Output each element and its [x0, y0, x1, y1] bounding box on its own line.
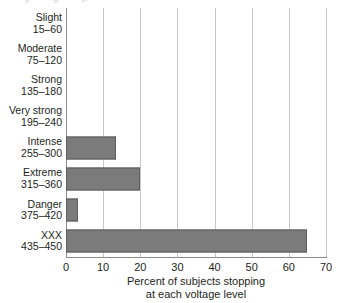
category-label-very-strong: Very strong 195–240: [0, 101, 62, 132]
bar-rows: [66, 8, 326, 257]
xtick-30: 30: [171, 259, 183, 275]
clipped-text-remnant: g g p: [24, 0, 97, 3]
xtick-60: 60: [283, 259, 295, 275]
category-range: 315–360: [21, 179, 62, 191]
category-range: 375–420: [21, 210, 62, 222]
x-axis-label-line2: at each voltage level: [66, 288, 326, 301]
bar-chart: g g p Slight 15–60 Moderate 75–120 Stron…: [0, 0, 338, 303]
category-name: Moderate: [18, 43, 62, 55]
x-axis-line: [66, 257, 327, 258]
bar-row-xxx: [66, 226, 326, 257]
clipped-top-text: g g p: [0, 0, 338, 4]
category-range: 435–450: [21, 241, 62, 253]
xtick-40: 40: [208, 259, 220, 275]
gridline-70: [326, 8, 327, 257]
xtick-70: 70: [320, 259, 332, 275]
category-range: 195–240: [21, 117, 62, 129]
category-range: 135–180: [21, 86, 62, 98]
xtick-10: 10: [97, 259, 109, 275]
category-label-extreme: Extreme 315–360: [0, 164, 62, 195]
bar-intense: [66, 137, 116, 160]
x-axis-label-line1: Percent of subjects stopping: [66, 275, 326, 288]
y-axis-category-labels: Slight 15–60 Moderate 75–120 Strong 135–…: [0, 8, 62, 257]
bar-row-intense: [66, 133, 326, 164]
bar-row-extreme: [66, 164, 326, 195]
category-label-strong: Strong 135–180: [0, 70, 62, 101]
category-name: Slight: [36, 12, 62, 24]
bar-row-very-strong: [66, 101, 326, 132]
category-range: 255–300: [21, 148, 62, 160]
x-axis-label: Percent of subjects stopping at each vol…: [66, 275, 326, 302]
category-range: 75–120: [27, 55, 62, 67]
xtick-50: 50: [246, 259, 258, 275]
bar-row-slight: [66, 8, 326, 39]
category-label-danger: Danger 375–420: [0, 195, 62, 226]
x-axis-tick-labels: 0 10 20 30 40 50 60 70: [0, 259, 338, 275]
bar-xxx: [66, 230, 307, 253]
bar-danger: [66, 199, 78, 222]
xtick-0: 0: [63, 259, 69, 275]
category-label-intense: Intense 255–300: [0, 133, 62, 164]
bar-row-moderate: [66, 39, 326, 70]
category-range: 15–60: [33, 24, 62, 36]
plot-area: [66, 8, 326, 257]
xtick-20: 20: [134, 259, 146, 275]
category-label-moderate: Moderate 75–120: [0, 39, 62, 70]
bar-row-danger: [66, 195, 326, 226]
bar-extreme: [66, 168, 140, 191]
category-label-slight: Slight 15–60: [0, 8, 62, 39]
bar-row-strong: [66, 70, 326, 101]
category-label-xxx: XXX 435–450: [0, 226, 62, 257]
